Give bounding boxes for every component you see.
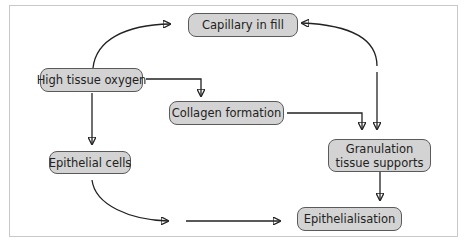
node-epithelial-cells: Epithelial cells (49, 151, 131, 174)
node-label: Collagen formation (172, 106, 282, 120)
node-label: High tissue oxygen (37, 73, 147, 87)
node-label-line2: tissue supports (336, 156, 424, 170)
node-label: Epithelialisation (304, 212, 396, 226)
node-granulation-tissue-supports: Granulation tissue supports (328, 139, 431, 172)
node-label-line1: Granulation (346, 142, 414, 156)
node-high-tissue-oxygen: High tissue oxygen (40, 68, 143, 92)
node-label: Capillary in fill (202, 18, 284, 32)
node-capillary-in-fill: Capillary in fill (188, 13, 298, 37)
node-collagen-formation: Collagen formation (169, 101, 284, 125)
node-label: Epithelial cells (49, 156, 132, 170)
node-epithelialisation: Epithelialisation (297, 207, 402, 231)
